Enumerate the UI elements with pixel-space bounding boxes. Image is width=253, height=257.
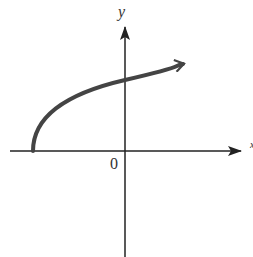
graph-canvas (0, 0, 253, 257)
x-axis-label: x (250, 140, 253, 150)
curve (33, 64, 183, 151)
y-axis-label: y (118, 4, 125, 20)
origin-label: 0 (110, 156, 118, 172)
